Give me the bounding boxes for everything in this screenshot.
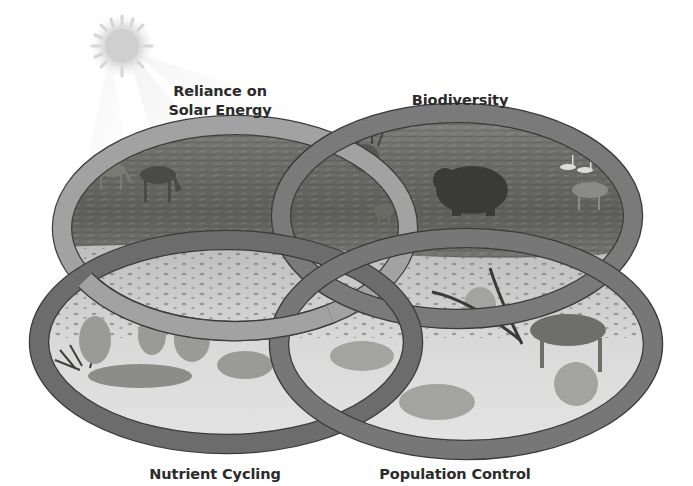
sun-icon	[88, 12, 156, 80]
label-nutrient-cycling: Nutrient Cycling	[140, 465, 290, 484]
label-population-control: Population Control	[365, 465, 545, 484]
ecosystem-diagram: Reliance on Solar Energy Biodiversity Nu…	[0, 0, 693, 486]
diagram-graphic	[0, 0, 693, 486]
label-line-1: Reliance on	[150, 82, 290, 101]
label-line-2: Solar Energy	[150, 101, 290, 120]
label-biodiversity: Biodiversity	[395, 91, 525, 110]
label-reliance-on-solar-energy: Reliance on Solar Energy	[150, 82, 290, 120]
